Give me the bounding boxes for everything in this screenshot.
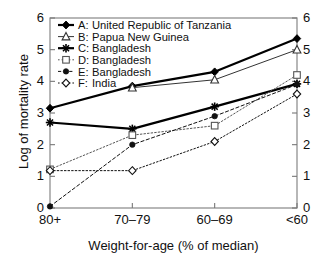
legend-key-E: E: [78, 66, 89, 78]
legend-key-F: F: [78, 77, 88, 89]
series-line-E [50, 85, 297, 207]
legend-label-A: United Republic of Tanzania [92, 19, 232, 31]
legend-marker-E [63, 69, 68, 74]
legend-key-A: A: [78, 19, 89, 31]
legend-key-B: B: [78, 31, 89, 43]
data-point-D [211, 122, 218, 129]
legend-label-F: India [92, 77, 117, 89]
legend-marker-D [63, 57, 70, 64]
data-point-E [294, 82, 299, 87]
data-point-A [46, 104, 53, 112]
data-point-E [212, 113, 217, 118]
data-point-A [293, 35, 300, 43]
data-point-C [210, 102, 218, 110]
data-point-D [129, 132, 136, 139]
legend-key-C: C: [78, 42, 89, 54]
legend-marker-F [62, 79, 69, 87]
data-point-F [129, 167, 136, 175]
plot-area: A:United Republic of TanzaniaB:Papua New… [0, 0, 332, 263]
legend-label-C: Bangladesh [92, 42, 151, 54]
legend-key-D: D: [78, 54, 89, 66]
data-point-E [130, 142, 135, 147]
legend: A:United Republic of TanzaniaB:Papua New… [58, 19, 232, 89]
data-point-B [211, 76, 219, 84]
data-point-C [46, 118, 54, 126]
data-point-E [47, 204, 52, 209]
series-F [46, 90, 300, 174]
series-line-F [50, 94, 297, 171]
series-E [47, 82, 299, 209]
data-point-F [293, 90, 300, 98]
legend-label-D: Bangladesh [92, 54, 151, 66]
legend-marker-C [62, 44, 70, 52]
legend-label-B: Papua New Guinea [92, 31, 190, 43]
legend-label-E: Bangladesh [92, 66, 151, 78]
data-point-D [294, 72, 301, 79]
chart-container: Log of mortality rate Weight-for-age (% … [0, 0, 332, 263]
series-line-C [50, 84, 297, 129]
legend-marker-A [62, 21, 69, 29]
data-point-F [211, 138, 218, 146]
